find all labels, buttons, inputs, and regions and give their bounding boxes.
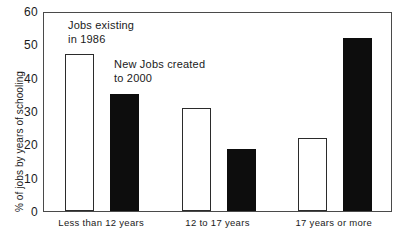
y-axis-tick-label-wrap: 30: [0, 106, 38, 118]
bar-open-0: [65, 54, 94, 211]
bar-filled-2: [343, 38, 372, 211]
y-axis-tick-label-wrap: 20: [0, 139, 38, 151]
bar-filled-1: [227, 149, 256, 211]
clipped-title-remnant: [120, 0, 320, 3]
y-axis-tick-label: 30: [4, 106, 38, 118]
y-axis-tick-label: 60: [4, 6, 38, 18]
bar-open-2: [298, 138, 327, 211]
bar-filled-0: [110, 94, 139, 211]
bar-open-1: [182, 108, 211, 211]
x-axis-group-label: 17 years or more: [264, 217, 404, 228]
y-axis-tick-label: 20: [4, 139, 38, 151]
y-axis-tick-label: 50: [4, 39, 38, 51]
annotation-jobs-existing: Jobs existing in 1986: [68, 18, 134, 46]
bar-chart-figure: % of jobs by years of schooling 01020304…: [0, 0, 405, 241]
annotation-new-jobs: New Jobs created to 2000: [114, 57, 205, 85]
y-axis-tick-label-wrap: 60: [0, 6, 38, 18]
y-axis-tick-label: 10: [4, 173, 38, 185]
y-axis-tick-label-wrap: 40: [0, 73, 38, 85]
y-axis-tick-label: 40: [4, 73, 38, 85]
y-axis-tick-label-wrap: 10: [0, 173, 38, 185]
y-axis-tick-label-wrap: 50: [0, 39, 38, 51]
